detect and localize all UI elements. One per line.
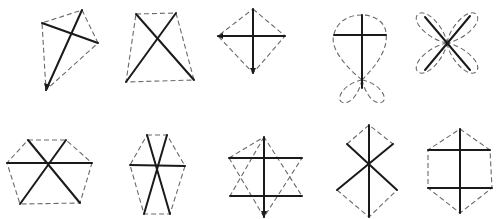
figure-hexagon-diagonals [7,140,92,204]
line-figures-diagram [0,0,500,219]
figure-star-of-david [229,137,302,218]
figure-four-petal [416,13,478,73]
figure-kite [42,10,98,91]
figure-rhombus-cross [217,9,285,74]
figure-trapezoid [126,13,194,82]
arrowhead-icon [250,68,256,74]
figure-hexagon-h [428,129,492,213]
figure-cross-loops [333,15,386,103]
figure-elongated-hexagon [130,135,185,214]
figure-double-rhombus [337,125,397,217]
